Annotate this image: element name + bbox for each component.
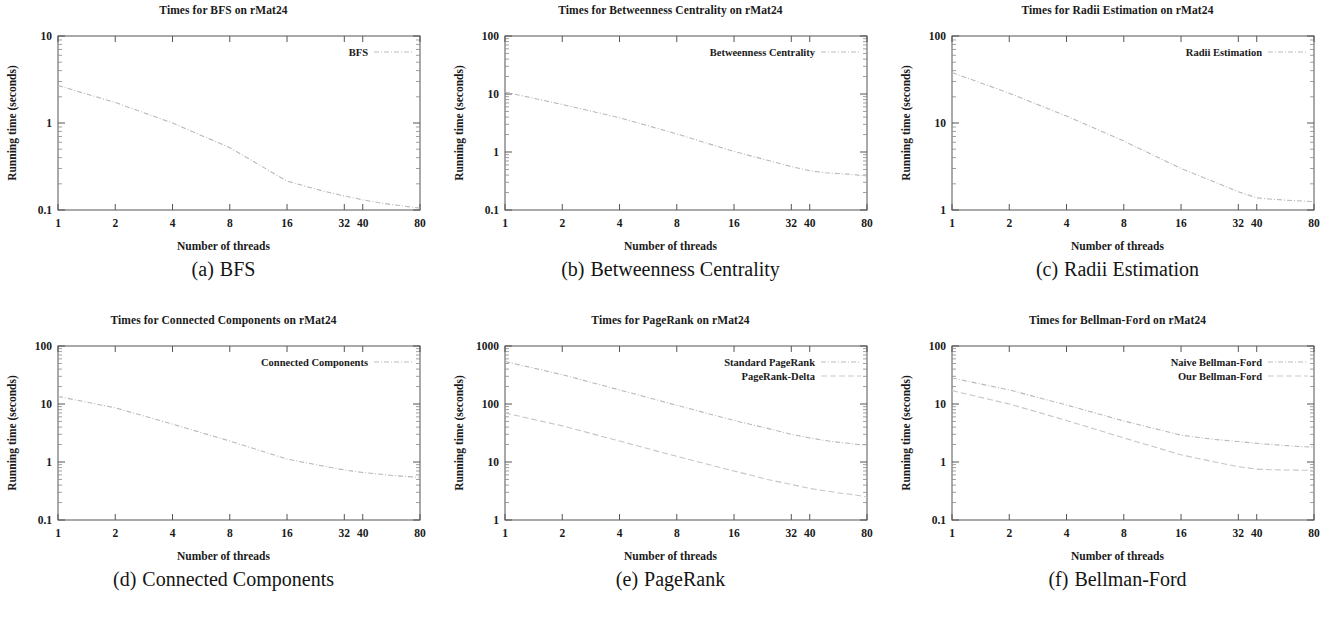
x-tick-label: 1 [949,217,955,229]
y-axis-title: Running time (seconds) [453,65,466,181]
y-axis-title: Running time (seconds) [6,375,19,491]
x-tick-label: 8 [674,527,680,539]
caption-letter: (d) [113,568,136,590]
y-tick-label: 10 [488,456,500,468]
x-tick-label: 4 [617,527,623,539]
x-axis-title: Number of threads [894,240,1341,252]
legend-label: BFS [349,47,368,58]
legend-label: Connected Components [261,357,368,368]
legend-label: Radii Estimation [1186,47,1262,58]
y-tick-label: 0.1 [485,204,500,216]
x-tick-label: 32 [1233,527,1245,539]
x-tick-label: 32 [1233,217,1245,229]
x-tick-label: 2 [559,217,565,229]
series-line [952,391,1314,471]
y-tick-label: 100 [929,30,947,42]
plot-frame [58,346,420,520]
plot-area-connected-components: 0.1110100124816324080Connected Component… [0,310,447,560]
y-tick-label: 0.1 [38,514,53,526]
x-axis-title: Number of threads [894,550,1341,562]
y-axis-title: Running time (seconds) [453,375,466,491]
plot-area-radii-estimation: 110100124816324080Radii EstimationRunnin… [894,0,1341,250]
x-tick-label: 1 [502,217,508,229]
x-tick-label: 1 [949,527,955,539]
panel-pagerank: Times for PageRank on rMat24110100100012… [447,310,894,620]
plot-frame [58,36,420,210]
x-tick-label: 32 [786,217,798,229]
panel-bfs: Times for BFS on rMat240.111012481632408… [0,0,447,310]
series-line [505,413,867,497]
legend-label: Naive Bellman-Ford [1171,357,1262,368]
x-tick-label: 8 [1121,217,1127,229]
x-tick-label: 1 [55,217,61,229]
y-axis-title: Running time (seconds) [900,375,913,491]
legend-label: Our Bellman-Ford [1178,371,1262,382]
x-tick-label: 2 [1006,527,1012,539]
y-tick-label: 1 [940,456,946,468]
y-tick-label: 100 [929,340,947,352]
x-axis-title: Number of threads [0,550,447,562]
y-tick-label: 1 [940,204,946,216]
x-tick-label: 32 [339,217,351,229]
plot-area-bfs: 0.1110124816324080BFSRunning time (secon… [0,0,447,250]
panel-betweenness-centrality: Times for Betweenness Centrality on rMat… [447,0,894,310]
y-tick-label: 0.1 [38,204,53,216]
y-tick-label: 10 [935,117,947,129]
y-tick-label: 10 [488,88,500,100]
y-tick-label: 1 [46,117,52,129]
y-tick-label: 100 [35,340,53,352]
y-tick-label: 1 [493,146,499,158]
x-tick-label: 16 [728,527,740,539]
x-tick-label: 40 [357,527,369,539]
x-tick-label: 4 [170,217,176,229]
x-tick-label: 2 [112,527,118,539]
x-tick-label: 2 [112,217,118,229]
x-axis-title: Number of threads [447,240,894,252]
series-line [58,85,420,208]
plot-area-pagerank: 1101001000124816324080Standard PageRankP… [447,310,894,560]
x-tick-label: 16 [728,217,740,229]
y-axis-title: Running time (seconds) [6,65,19,181]
x-tick-label: 80 [861,217,873,229]
x-tick-label: 80 [1308,527,1320,539]
x-tick-label: 8 [1121,527,1127,539]
panel-connected-components: Times for Connected Components on rMat24… [0,310,447,620]
x-tick-label: 4 [170,527,176,539]
y-tick-label: 0.1 [932,514,947,526]
x-tick-label: 40 [1251,527,1263,539]
y-tick-label: 100 [482,398,500,410]
x-tick-label: 2 [1006,217,1012,229]
y-axis-title: Running time (seconds) [900,65,913,181]
x-tick-label: 16 [281,527,293,539]
caption-text: PageRank [644,568,725,590]
x-tick-label: 4 [617,217,623,229]
y-tick-label: 10 [935,398,947,410]
y-tick-label: 10 [41,30,53,42]
series-line [58,396,420,477]
panel-caption: (d)Connected Components [0,568,447,591]
x-tick-label: 8 [227,527,233,539]
panel-bellman-ford: Times for Bellman-Ford on rMat240.111010… [894,310,1341,620]
legend-label: Standard PageRank [724,357,815,368]
x-tick-label: 40 [804,527,816,539]
caption-letter: (c) [1036,258,1058,280]
x-tick-label: 1 [502,527,508,539]
y-tick-label: 1 [46,456,52,468]
plot-area-betweenness-centrality: 0.1110100124816324080Betweenness Central… [447,0,894,250]
x-axis-title: Number of threads [447,550,894,562]
x-axis-title: Number of threads [0,240,447,252]
plot-frame [952,36,1314,210]
series-line [952,378,1314,447]
panel-caption: (b)Betweenness Centrality [447,258,894,281]
caption-letter: (e) [616,568,638,590]
x-tick-label: 8 [674,217,680,229]
panel-caption: (a)BFS [0,258,447,281]
x-tick-label: 32 [786,527,798,539]
caption-text: BFS [220,258,256,280]
plot-frame [505,36,867,210]
x-tick-label: 40 [1251,217,1263,229]
x-tick-label: 8 [227,217,233,229]
y-tick-label: 100 [482,30,500,42]
series-line [952,73,1314,202]
panel-caption: (c)Radii Estimation [894,258,1341,281]
